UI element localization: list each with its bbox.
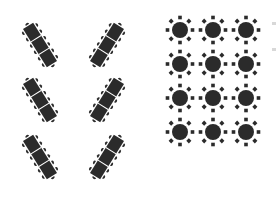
- round-table: [166, 84, 195, 113]
- edge-fragment: [272, 48, 276, 51]
- chair-icon: [235, 70, 240, 75]
- chair-icon: [51, 176, 55, 180]
- chair-icon: [235, 138, 240, 143]
- chair-icon: [244, 109, 248, 113]
- chair-icon: [21, 86, 25, 90]
- chair-icon: [191, 130, 195, 134]
- chair-icon: [104, 84, 108, 88]
- chair-icon: [92, 64, 96, 68]
- chair-icon: [92, 103, 96, 107]
- chair-icon: [252, 138, 257, 143]
- table-top: [172, 124, 188, 140]
- chair-icon: [178, 109, 182, 113]
- chair-icon: [211, 143, 215, 147]
- table-top: [205, 56, 221, 72]
- chair-icon: [219, 121, 224, 126]
- edge-fragment: [272, 22, 276, 25]
- chair-icon: [92, 176, 96, 180]
- chair-icon: [169, 104, 174, 109]
- chair-icon: [186, 87, 191, 92]
- chair-icon: [47, 97, 51, 101]
- chair-icon: [235, 53, 240, 58]
- chair-icon: [211, 75, 215, 79]
- chair-icon: [252, 121, 257, 126]
- chair-icon: [244, 16, 248, 20]
- round-table: [166, 118, 195, 147]
- table-top: [238, 22, 254, 38]
- round-table: [199, 16, 228, 45]
- chair-icon: [118, 150, 122, 154]
- table-top: [23, 135, 57, 180]
- chair-icon: [25, 77, 29, 81]
- chair-icon: [88, 54, 92, 58]
- chair-icon: [219, 36, 224, 41]
- chair-icon: [21, 31, 25, 35]
- chair-icon: [166, 62, 170, 66]
- chair-icon: [186, 138, 191, 143]
- chair-icon: [110, 105, 114, 109]
- chair-icon: [252, 104, 257, 109]
- chair-icon: [51, 160, 55, 164]
- chair-icon: [25, 22, 29, 26]
- chair-icon: [211, 16, 215, 20]
- chair-icon: [37, 169, 41, 173]
- chair-icon: [191, 28, 195, 32]
- chair-icon: [224, 62, 228, 66]
- chair-icon: [257, 96, 261, 100]
- chair-icon: [106, 169, 110, 173]
- chair-icon: [166, 130, 170, 134]
- chair-icon: [37, 57, 41, 61]
- chair-icon: [41, 118, 45, 122]
- chair-icon: [35, 23, 39, 27]
- chair-icon: [102, 63, 106, 67]
- banquet-herringbone-layout: [19, 18, 129, 183]
- chair-icon: [178, 84, 182, 88]
- chair-icon: [35, 135, 39, 139]
- chair-icon: [257, 28, 261, 32]
- chair-icon: [219, 138, 224, 143]
- chair-icon: [202, 121, 207, 126]
- chair-icon: [235, 87, 240, 92]
- round-table: [199, 118, 228, 147]
- chair-icon: [202, 36, 207, 41]
- banquet-table: [86, 18, 129, 71]
- chair-icon: [43, 147, 47, 151]
- chair-icon: [102, 175, 106, 179]
- round-table-grid-layout: [166, 16, 261, 147]
- chair-icon: [202, 53, 207, 58]
- chair-icon: [169, 19, 174, 24]
- chair-icon: [41, 63, 45, 67]
- chair-icon: [232, 28, 236, 32]
- round-table: [232, 50, 261, 79]
- chair-icon: [43, 90, 47, 94]
- table-top: [172, 22, 188, 38]
- table-top: [90, 135, 124, 180]
- chair-icon: [199, 96, 203, 100]
- chair-icon: [108, 78, 112, 82]
- chair-icon: [211, 109, 215, 113]
- chair-icon: [21, 143, 25, 147]
- chair-icon: [202, 138, 207, 143]
- round-table: [199, 84, 228, 113]
- table-top: [238, 124, 254, 140]
- chair-icon: [55, 166, 59, 170]
- chair-icon: [122, 31, 126, 35]
- chair-icon: [51, 119, 55, 123]
- chair-icon: [244, 50, 248, 54]
- chair-icon: [102, 118, 106, 122]
- chair-icon: [186, 53, 191, 58]
- chair-icon: [232, 96, 236, 100]
- chair-icon: [37, 112, 41, 116]
- chair-icon: [51, 48, 55, 52]
- round-table: [232, 84, 261, 113]
- chair-icon: [169, 36, 174, 41]
- chair-icon: [100, 35, 104, 39]
- chair-icon: [55, 54, 59, 58]
- chair-icon: [199, 62, 203, 66]
- chair-icon: [92, 119, 96, 123]
- chair-icon: [166, 96, 170, 100]
- chair-icon: [178, 41, 182, 45]
- chair-icon: [100, 147, 104, 151]
- chair-icon: [118, 77, 122, 81]
- chair-icon: [244, 41, 248, 45]
